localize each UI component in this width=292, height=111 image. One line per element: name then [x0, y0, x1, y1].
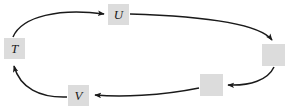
edge-T-to-U — [13, 12, 104, 37]
node-V-label: V — [75, 89, 83, 102]
edge-B-to-V — [95, 88, 199, 96]
node-unlabeled-bottom[interactable] — [200, 74, 223, 96]
node-unlabeled-right[interactable] — [262, 44, 285, 66]
node-U[interactable]: U — [108, 4, 129, 25]
edge-U-to-R — [130, 14, 272, 40]
edge-V-to-T — [14, 66, 67, 97]
node-T-label: T — [11, 42, 18, 55]
edge-R-to-B — [228, 67, 274, 85]
cycle-diagram: T U V — [0, 0, 292, 111]
node-V[interactable]: V — [68, 85, 89, 106]
edge-layer — [0, 0, 292, 111]
node-U-label: U — [114, 8, 123, 21]
node-T[interactable]: T — [4, 38, 25, 59]
